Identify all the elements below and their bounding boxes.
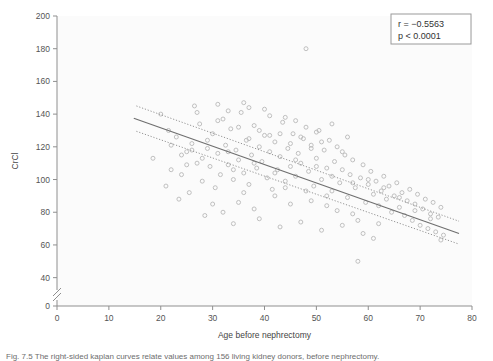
figure-caption: Fig. 7.5 The right-sided kaplan curves r… [6, 352, 493, 361]
x-tick-label: 30 [208, 313, 218, 323]
y-tick-label: 140 [36, 109, 50, 119]
y-tick-label: 160 [36, 76, 50, 86]
x-tick-label: 60 [364, 313, 374, 323]
y-tick-label: 60 [41, 240, 51, 250]
scatter-plot: 0406080100120140160180200010203040506070… [0, 0, 493, 361]
y-tick-label: 180 [36, 44, 50, 54]
x-tick-label: 50 [312, 313, 322, 323]
y-tick-label: 0 [45, 301, 50, 311]
correlation-label: r = −0.5563 [398, 19, 444, 29]
x-tick-label: 40 [260, 313, 270, 323]
y-axis-title: CrCl [10, 152, 20, 169]
y-tick-label: 100 [36, 175, 50, 185]
y-tick-label: 40 [41, 273, 51, 283]
stats-legend: r = −0.5563p < 0.0001 [391, 14, 471, 44]
x-tick-label: 70 [415, 313, 425, 323]
figure-container: 0406080100120140160180200010203040506070… [0, 0, 493, 361]
x-tick-label: 20 [156, 313, 166, 323]
plot-background [57, 16, 472, 306]
x-tick-label: 0 [55, 313, 60, 323]
x-axis-title: Age before nephrectomy [218, 330, 312, 340]
x-tick-label: 80 [467, 313, 477, 323]
pvalue-label: p < 0.0001 [398, 31, 441, 41]
y-tick-label: 120 [36, 142, 50, 152]
y-tick-label: 200 [36, 11, 50, 21]
x-tick-label: 10 [104, 313, 114, 323]
y-tick-label: 80 [41, 207, 51, 217]
